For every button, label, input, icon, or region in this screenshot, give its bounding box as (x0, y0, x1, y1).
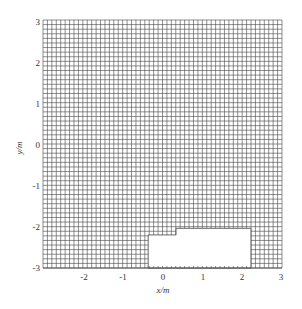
mesh-figure: -2 -1 0 1 2 3 x/m 3 2 1 0 -1 -2 -3 y/m (0, 0, 302, 309)
x-axis: -2 -1 0 1 2 3 x/m (80, 272, 284, 295)
y-axis-label: y/m (14, 141, 24, 155)
x-axis-label: x/m (156, 285, 170, 295)
x-tick-label: 3 (279, 272, 284, 282)
y-tick-label: -3 (33, 263, 41, 273)
x-tick-label: -2 (80, 272, 88, 282)
x-tick-label: -1 (119, 272, 127, 282)
mesh-cutout-region (148, 228, 251, 268)
x-tick-label: 2 (240, 272, 245, 282)
x-tick-label: 1 (201, 272, 206, 282)
y-axis: 3 2 1 0 -1 -2 -3 y/m (14, 17, 41, 273)
y-tick-label: -1 (33, 181, 41, 191)
mesh-plot-area (43, 20, 282, 268)
y-tick-label: 1 (36, 99, 41, 109)
y-tick-label: 2 (36, 58, 41, 68)
y-tick-label: 0 (36, 140, 41, 150)
x-tick-label: 0 (161, 272, 166, 282)
y-tick-label: -2 (33, 222, 41, 232)
y-tick-label: 3 (36, 17, 41, 27)
